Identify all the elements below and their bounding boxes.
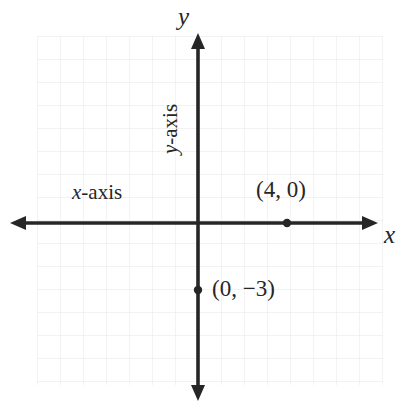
- point-a-coordinate-label: (4, 0): [256, 178, 306, 201]
- x-axis-name-label: x-axis: [72, 182, 122, 203]
- point-b-coordinate-label: (0, −3): [212, 277, 275, 300]
- x-axis-name-suffix: -axis: [81, 180, 122, 204]
- coordinate-plane-figure: y x x-axis y-axis (4, 0) (0, −3): [0, 0, 412, 408]
- x-axis-left-arrowhead: [10, 216, 26, 230]
- y-axis-name-suffix: -axis: [158, 104, 182, 145]
- point-marker-b: [194, 286, 202, 294]
- coordinate-plane-canvas: [0, 0, 412, 408]
- grid-background: [37, 36, 383, 385]
- y-axis-name-label: y-axis: [160, 104, 181, 154]
- y-axis-variable-label: y: [178, 4, 189, 29]
- point-marker-a: [283, 219, 291, 227]
- y-axis-name-prefix: y: [158, 145, 182, 154]
- x-axis-variable-label: x: [384, 222, 395, 247]
- x-axis-name-prefix: x: [72, 180, 81, 204]
- y-axis-bottom-arrowhead: [191, 385, 205, 401]
